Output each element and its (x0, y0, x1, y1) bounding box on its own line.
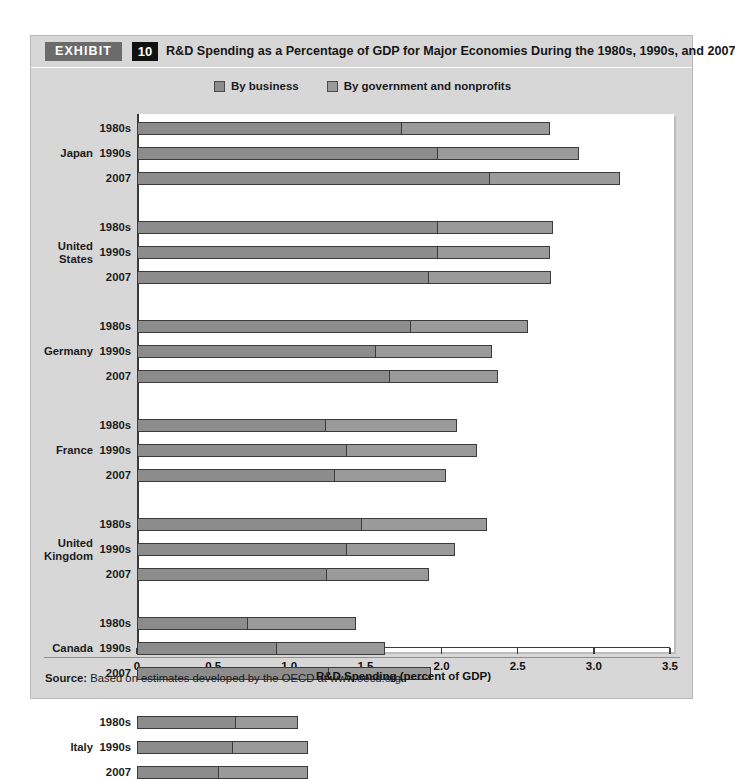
period-label-2007: 2007 (106, 766, 131, 779)
chart-area: By business By government and nonprofits… (43, 70, 682, 647)
source-label: Source: (45, 672, 87, 684)
exhibit-number-badge: 10 (132, 42, 158, 61)
plot-canvas: 00.51.01.52.02.53.03.5 (137, 114, 670, 648)
bar-segment-government (325, 419, 457, 432)
bar-row (137, 444, 670, 457)
bar-segment-business (137, 469, 335, 482)
country-label-united-states: UnitedStates (58, 240, 93, 265)
period-label-1980s: 1980s (100, 122, 131, 135)
bar-segment-government (489, 172, 620, 185)
bar-row (137, 221, 670, 234)
period-label-2007: 2007 (106, 469, 131, 482)
bar-segment-government (218, 766, 308, 779)
exhibit-panel: EXHIBIT 10 R&D Spending as a Percentage … (30, 35, 693, 699)
period-label-1980s: 1980s (100, 518, 131, 531)
period-label-1990s: 1990s (100, 444, 131, 457)
exhibit-tag-badge: EXHIBIT (45, 42, 122, 61)
source-text: Based on estimates developed by the OECD… (87, 672, 404, 684)
bar-segment-business (137, 271, 429, 284)
bar-segment-business (137, 221, 439, 234)
bar-segment-government (437, 246, 549, 259)
country-label-germany: Germany (44, 345, 93, 358)
bar-segment-business (137, 543, 347, 556)
period-label-1980s: 1980s (100, 320, 131, 333)
bar-row (137, 766, 670, 779)
header-divider (31, 67, 692, 68)
bar-row (137, 518, 670, 531)
bar-row (137, 147, 670, 160)
bar-segment-government (428, 271, 551, 284)
bar-row (137, 345, 670, 358)
bar-segment-business (137, 766, 219, 779)
bar-segment-business (137, 642, 277, 655)
period-label-1990s: 1990s (100, 543, 131, 556)
period-label-1980s: 1980s (100, 716, 131, 729)
legend-swatch-government-icon (327, 81, 338, 92)
bar-row (137, 543, 670, 556)
period-label-2007: 2007 (106, 370, 131, 383)
footer-divider (44, 657, 680, 658)
period-label-1980s: 1980s (100, 617, 131, 630)
bar-segment-business (137, 246, 439, 259)
exhibit-title: R&D Spending as a Percentage of GDP for … (166, 41, 684, 62)
bar-row (137, 419, 670, 432)
legend-item-government: By government and nonprofits (327, 80, 511, 92)
period-label-1990s: 1990s (100, 642, 131, 655)
period-label-1980s: 1980s (100, 221, 131, 234)
bar-segment-government (375, 345, 492, 358)
period-label-2007: 2007 (106, 172, 131, 185)
bar-row (137, 370, 670, 383)
chart-legend: By business By government and nonprofits (43, 80, 682, 98)
bar-segment-government (232, 741, 308, 754)
bar-segment-business (137, 518, 362, 531)
source-note: Source: Based on estimates developed by … (45, 672, 404, 684)
bar-row (137, 568, 670, 581)
country-label-canada: Canada (52, 642, 93, 655)
legend-item-business: By business (214, 80, 299, 92)
bar-row (137, 617, 670, 630)
bar-segment-government (235, 716, 299, 729)
bar-segment-government (346, 444, 477, 457)
bar-row (137, 741, 670, 754)
bar-segment-business (137, 172, 490, 185)
bar-row (137, 122, 670, 135)
bar-row (137, 172, 670, 185)
bar-segment-government (410, 320, 528, 333)
period-label-1990s: 1990s (100, 345, 131, 358)
country-label-italy: Italy (70, 741, 93, 754)
bar-row (137, 320, 670, 333)
country-label-france: France (56, 444, 93, 457)
bar-segment-government (334, 469, 446, 482)
legend-swatch-business-icon (214, 81, 225, 92)
bar-segment-government (247, 617, 356, 630)
bar-segment-business (137, 716, 236, 729)
bar-segment-business (137, 147, 439, 160)
bar-segment-government (361, 518, 487, 531)
bar-segment-business (137, 741, 233, 754)
period-label-1990s: 1990s (100, 741, 131, 754)
bar-row (137, 716, 670, 729)
bar-segment-government (389, 370, 498, 383)
period-label-1990s: 1990s (100, 246, 131, 259)
country-label-japan: Japan (60, 147, 93, 160)
period-label-1990s: 1990s (100, 147, 131, 160)
bar-row (137, 469, 670, 482)
bar-segment-business (137, 419, 326, 432)
bar-segment-business (137, 370, 390, 383)
bar-segment-business (137, 122, 402, 135)
bar-segment-business (137, 617, 248, 630)
bar-segment-business (137, 444, 347, 457)
legend-label-business: By business (231, 80, 299, 92)
bar-segment-business (137, 320, 411, 333)
legend-label-government: By government and nonprofits (344, 80, 511, 92)
bar-segment-government (437, 221, 552, 234)
period-label-2007: 2007 (106, 568, 131, 581)
bar-row (137, 642, 670, 655)
bar-row (137, 271, 670, 284)
bar-segment-business (137, 568, 327, 581)
bar-segment-government (346, 543, 455, 556)
bar-segment-government (437, 147, 578, 160)
country-label-united-kingdom: UnitedKingdom (44, 537, 93, 562)
bar-row (137, 246, 670, 259)
bar-segment-business (137, 345, 376, 358)
